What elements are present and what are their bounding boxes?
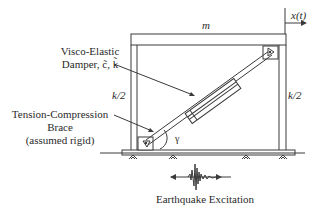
angle-arc [160, 130, 167, 149]
pin-bottom-dot [145, 142, 147, 144]
brace-line-a [146, 51, 269, 140]
damper-label-line1: Visco-Elastic [40, 46, 140, 57]
damper-label-line2: Damper, c̃, k̃ [40, 59, 140, 70]
displacement-label: x(t) [291, 10, 306, 21]
diagram-canvas: m x(t) Visco-Elastic Damper, c̃, k̃ k/2 … [0, 0, 324, 213]
brace-label-line3: (assumed rigid) [4, 135, 116, 146]
brace-leader-line [114, 115, 152, 131]
right-stiffness-label: k/2 [288, 90, 301, 101]
excitation-label: Earthquake Excitation [140, 194, 270, 205]
supports [129, 155, 287, 159]
mass-label: m [202, 20, 210, 31]
angle-label: γ [175, 134, 179, 144]
mass-beam [131, 34, 286, 45]
brace-label-line1: Tension-Compression [4, 109, 116, 120]
damper-cylinder [185, 79, 241, 124]
brace-label-line2: Brace [4, 122, 116, 133]
frame-drawing [0, 0, 324, 213]
excitation-arrow-left [170, 174, 176, 180]
excitation-arrow-right [216, 174, 222, 180]
pin-top-dot [269, 51, 271, 53]
left-stiffness-label: k/2 [112, 90, 125, 101]
